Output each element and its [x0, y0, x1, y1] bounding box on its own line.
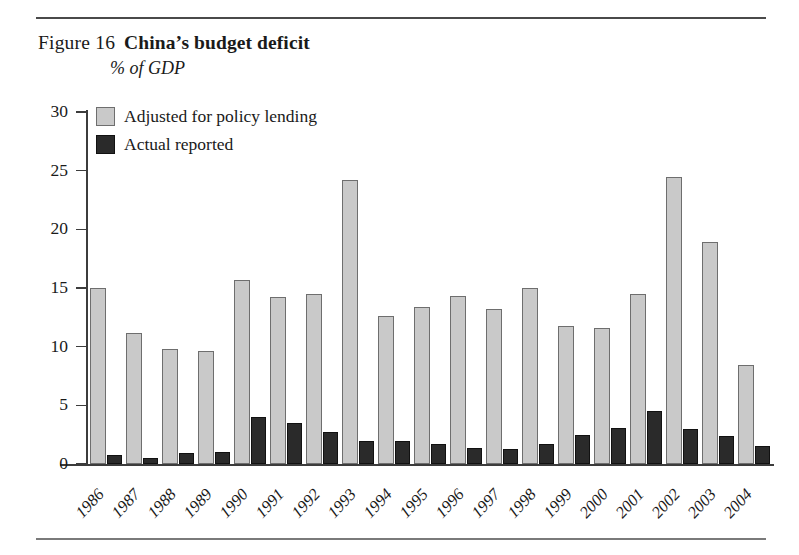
bar-adjusted-for-policy-lending — [522, 288, 538, 464]
bar-adjusted-for-policy-lending — [234, 280, 250, 464]
bar-group — [196, 112, 232, 464]
bar-group — [592, 112, 628, 464]
legend-swatch-adjusted-icon — [96, 107, 115, 126]
bar-actual-reported — [395, 441, 410, 464]
y-tick-label: 10 — [24, 336, 68, 357]
bar-adjusted-for-policy-lending — [558, 326, 574, 464]
bar-actual-reported — [719, 436, 734, 464]
bar-group — [664, 112, 700, 464]
x-axis-label: 1988 — [143, 485, 180, 523]
y-tick-mark — [76, 287, 87, 289]
bar-adjusted-for-policy-lending — [126, 333, 142, 464]
bar-group — [700, 112, 736, 464]
bar-chart: 051015202530 198619871988198919901991199… — [0, 0, 799, 555]
x-axis-label: 1994 — [359, 485, 396, 523]
bar-group — [160, 112, 196, 464]
x-axis-label: 1986 — [71, 485, 108, 523]
bar-adjusted-for-policy-lending — [450, 296, 466, 464]
bar-actual-reported — [611, 428, 626, 464]
bar-group — [232, 112, 268, 464]
bar-group — [556, 112, 592, 464]
y-tick-label: 25 — [24, 160, 68, 181]
x-axis-label: 1995 — [395, 485, 432, 523]
legend-label-adjusted: Adjusted for policy lending — [124, 106, 317, 127]
legend-item-actual: Actual reported — [96, 132, 317, 156]
x-axis-label: 2001 — [611, 485, 648, 523]
bar-group — [448, 112, 484, 464]
y-tick-mark — [76, 405, 87, 407]
bar-group — [520, 112, 556, 464]
y-tick-label: 15 — [24, 277, 68, 298]
x-axis-label: 1992 — [287, 485, 324, 523]
x-axis-label: 1997 — [467, 485, 504, 523]
bar-adjusted-for-policy-lending — [306, 294, 322, 464]
bar-adjusted-for-policy-lending — [630, 294, 646, 464]
x-axis-label: 1991 — [251, 485, 288, 523]
legend-item-adjusted: Adjusted for policy lending — [96, 104, 317, 128]
bar-adjusted-for-policy-lending — [486, 309, 502, 464]
bar-actual-reported — [647, 411, 662, 464]
bar-group — [736, 112, 772, 464]
bar-group — [628, 112, 664, 464]
figure-container: Figure 16China’s budget deficit % of GDP… — [0, 0, 799, 555]
bar-group — [484, 112, 520, 464]
bar-actual-reported — [179, 453, 194, 464]
bar-adjusted-for-policy-lending — [270, 297, 286, 464]
y-tick-mark — [76, 463, 87, 465]
x-axis-label: 2002 — [647, 485, 684, 523]
bar-adjusted-for-policy-lending — [414, 307, 430, 464]
x-axis-label: 1990 — [215, 485, 252, 523]
bar-actual-reported — [683, 429, 698, 464]
bar-group — [124, 112, 160, 464]
x-axis-label: 1999 — [539, 485, 576, 523]
y-tick-mark — [76, 111, 87, 113]
x-axis-label: 1987 — [107, 485, 144, 523]
x-axis-labels: 1986198719881989199019911992199319941995… — [88, 468, 772, 538]
bar-adjusted-for-policy-lending — [342, 180, 358, 464]
bar-actual-reported — [431, 444, 446, 464]
legend-swatch-actual-icon — [96, 135, 115, 154]
bar-adjusted-for-policy-lending — [666, 177, 682, 464]
x-axis-label: 1998 — [503, 485, 540, 523]
x-axis-label: 2004 — [719, 485, 756, 523]
bar-actual-reported — [251, 417, 266, 464]
bar-adjusted-for-policy-lending — [162, 349, 178, 464]
plot-area — [88, 112, 772, 464]
bar-group — [268, 112, 304, 464]
bar-adjusted-for-policy-lending — [198, 351, 214, 464]
y-tick-mark — [76, 346, 87, 348]
bar-actual-reported — [503, 449, 518, 464]
bar-adjusted-for-policy-lending — [738, 365, 754, 464]
x-axis-label: 1996 — [431, 485, 468, 523]
bar-group — [304, 112, 340, 464]
bar-actual-reported — [287, 423, 302, 464]
bar-actual-reported — [575, 435, 590, 464]
bar-group — [88, 112, 124, 464]
x-axis-label: 1989 — [179, 485, 216, 523]
y-tick-label: 30 — [24, 101, 68, 122]
bar-adjusted-for-policy-lending — [378, 316, 394, 464]
bar-actual-reported — [755, 446, 770, 464]
y-tick-mark — [76, 170, 87, 172]
bar-group — [412, 112, 448, 464]
legend-label-actual: Actual reported — [124, 134, 233, 155]
x-axis-label: 2003 — [683, 485, 720, 523]
bar-actual-reported — [107, 455, 122, 464]
bar-actual-reported — [539, 444, 554, 464]
bar-adjusted-for-policy-lending — [594, 328, 610, 464]
x-axis-label: 2000 — [575, 485, 612, 523]
bar-adjusted-for-policy-lending — [90, 288, 106, 464]
x-axis-label: 1993 — [323, 485, 360, 523]
bar-actual-reported — [467, 448, 482, 464]
y-tick-label: 0 — [24, 453, 68, 474]
y-tick-mark — [76, 229, 87, 231]
y-tick-label: 20 — [24, 218, 68, 239]
bar-actual-reported — [215, 452, 230, 464]
y-tick-label: 5 — [24, 394, 68, 415]
bar-actual-reported — [323, 432, 338, 464]
bar-group — [376, 112, 412, 464]
bar-adjusted-for-policy-lending — [702, 242, 718, 464]
bar-actual-reported — [359, 441, 374, 464]
x-axis-line — [60, 464, 774, 466]
chart-legend: Adjusted for policy lending Actual repor… — [96, 104, 317, 160]
